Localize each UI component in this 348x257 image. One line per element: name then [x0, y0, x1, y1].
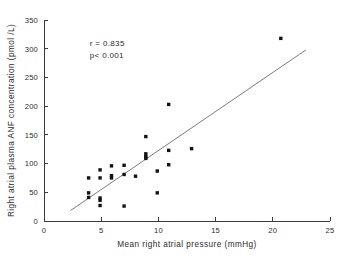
data-point — [98, 199, 101, 202]
y-axis-title: Right atrial plasma ANF concentration (p… — [7, 24, 16, 217]
data-point — [87, 176, 90, 179]
y-tick-label-0: 0 — [34, 217, 38, 226]
y-tick-label-50: 50 — [29, 188, 38, 197]
y-tick-label-350: 350 — [25, 16, 38, 25]
x-tick-label-10: 10 — [154, 226, 163, 235]
data-point — [167, 103, 170, 106]
data-point — [144, 157, 147, 160]
data-point — [98, 168, 101, 171]
x-tick-label-5: 5 — [99, 226, 103, 235]
data-point — [110, 164, 113, 167]
data-point — [98, 176, 101, 179]
data-point — [156, 169, 159, 172]
data-point — [122, 173, 125, 176]
data-point — [122, 204, 125, 207]
data-point — [110, 176, 113, 179]
data-point — [87, 196, 90, 199]
plot-canvas: 0501001502002503003500510152025Mean righ… — [0, 0, 348, 257]
y-tick-label-250: 250 — [25, 73, 38, 82]
y-tick-label-150: 150 — [25, 131, 38, 140]
data-point — [167, 149, 170, 152]
data-point — [134, 175, 137, 178]
x-tick-label-20: 20 — [268, 226, 277, 235]
data-point — [279, 37, 282, 40]
x-tick-label-0: 0 — [42, 226, 46, 235]
annotation-1: p< 0.001 — [90, 51, 124, 60]
x-axis-title: Mean right atrial pressure (mmHg) — [117, 240, 257, 249]
data-point — [144, 135, 147, 138]
y-tick-label-100: 100 — [25, 159, 38, 168]
data-point — [98, 204, 101, 207]
y-tick-label-200: 200 — [25, 102, 38, 111]
regression-line — [70, 50, 306, 211]
axis-spines — [44, 20, 330, 221]
x-tick-label-25: 25 — [326, 226, 335, 235]
data-point — [156, 191, 159, 194]
data-point — [167, 163, 170, 166]
data-point — [190, 147, 193, 150]
y-tick-label-300: 300 — [25, 45, 38, 54]
data-point — [87, 191, 90, 194]
annotation-0: r = 0.835 — [90, 39, 125, 48]
x-tick-label-15: 15 — [211, 226, 220, 235]
scatter-plot-figure: 0501001502002503003500510152025Mean righ… — [0, 0, 348, 257]
data-point — [122, 164, 125, 167]
